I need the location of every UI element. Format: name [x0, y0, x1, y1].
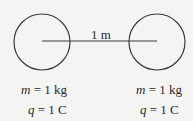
left-mass-label: m = 1 kg	[21, 83, 67, 96]
right-charge-label: q = 1 C	[140, 103, 179, 116]
right-mass-label: m = 1 kg	[136, 83, 182, 96]
right-sphere	[129, 14, 185, 70]
left-charge-label: q = 1 C	[28, 103, 67, 116]
left-sphere	[14, 14, 70, 70]
separation-label: 1 m	[91, 28, 111, 41]
